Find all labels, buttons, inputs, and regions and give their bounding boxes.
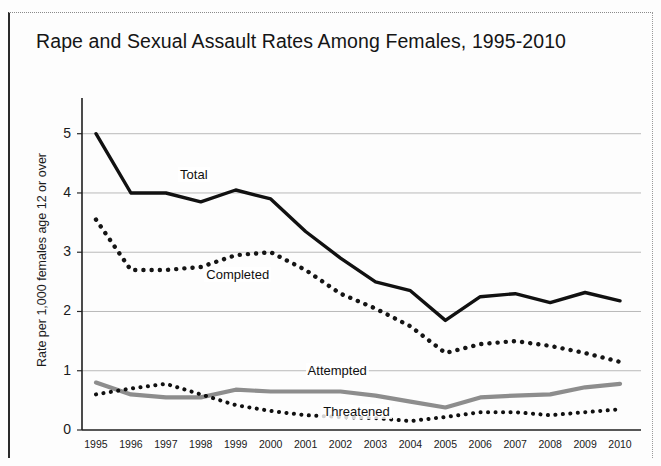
series-line-completed xyxy=(96,220,620,362)
series-label-completed: Completed xyxy=(204,267,271,282)
y-tick-label: 2 xyxy=(49,302,71,318)
line-chart-plot xyxy=(0,0,661,466)
y-tick-label: 1 xyxy=(49,362,71,378)
data-series-layer xyxy=(96,134,620,421)
series-label-threatened: Threatened xyxy=(321,404,392,419)
scanned-page: Rape and Sexual Assault Rates Among Fema… xyxy=(0,0,661,466)
y-tick-label: 0 xyxy=(49,421,71,437)
x-tick-label: 2010 xyxy=(600,438,640,450)
y-tick-label: 3 xyxy=(49,243,71,259)
y-tick-label: 5 xyxy=(49,125,71,141)
series-line-total xyxy=(96,134,620,321)
axis-lines xyxy=(82,98,641,430)
series-label-attempted: Attempted xyxy=(306,363,369,378)
series-label-total: Total xyxy=(178,167,209,182)
y-tick-label: 4 xyxy=(49,184,71,200)
